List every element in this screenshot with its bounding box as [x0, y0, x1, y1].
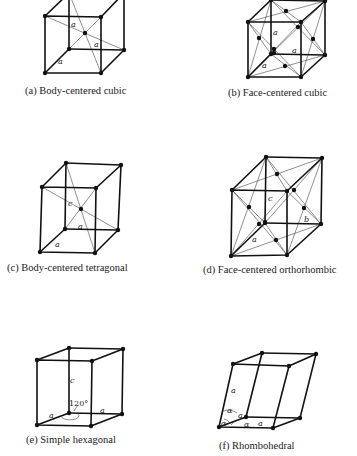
lattice-label-a: a	[71, 20, 76, 29]
lattice-label-a: a	[100, 406, 105, 415]
bcc-lattice: a a a	[43, 0, 126, 75]
angle-label-alpha: α	[244, 420, 250, 429]
lattice-label-a: a	[78, 222, 83, 231]
angle-label-alpha: α	[227, 406, 233, 415]
hexagonal-lattice: c 120° a a	[35, 346, 125, 428]
fco-lattice: c b a	[229, 155, 324, 258]
lattice-label-b: b	[304, 215, 309, 224]
caption-d: (d) Face-centered orthorhombic	[203, 264, 337, 275]
lattice-label-a: a	[49, 411, 54, 420]
lattice-label-a: a	[231, 386, 236, 395]
lattice-label-a: a	[94, 40, 99, 49]
bct-lattice: c a a	[38, 161, 123, 255]
lattice-label-c: c	[70, 376, 75, 385]
lattice-label-a: a	[258, 419, 263, 428]
caption-f: (f) Rhombohedral	[219, 440, 295, 451]
fcc-lattice: a a a	[246, 0, 327, 79]
lattice-label-a: a	[55, 240, 60, 249]
lattice-label-a: a	[273, 28, 278, 37]
lattice-label-c: c	[68, 199, 73, 208]
caption-a: (a) Body-centered cubic	[25, 85, 126, 96]
lattice-label-a: a	[58, 57, 63, 66]
lattice-label-a: a	[292, 46, 297, 55]
lattice-label-c: c	[268, 194, 273, 203]
panel-a-bcc-diagram: a a a	[0, 0, 357, 456]
caption-b: (b) Face-centered cubic	[228, 87, 327, 98]
lattice-label-a: a	[238, 411, 243, 420]
lattice-label-a: a	[262, 61, 267, 70]
angle-label-alpha: α	[221, 419, 227, 428]
caption-e: (e) Simple hexagonal	[26, 434, 116, 445]
lattice-label-a: a	[252, 235, 257, 244]
caption-c: (c) Body-centered tetragonal	[7, 262, 128, 273]
angle-label-120: 120°	[69, 399, 88, 408]
rhombohedral-lattice: a α a α α a	[217, 351, 318, 430]
